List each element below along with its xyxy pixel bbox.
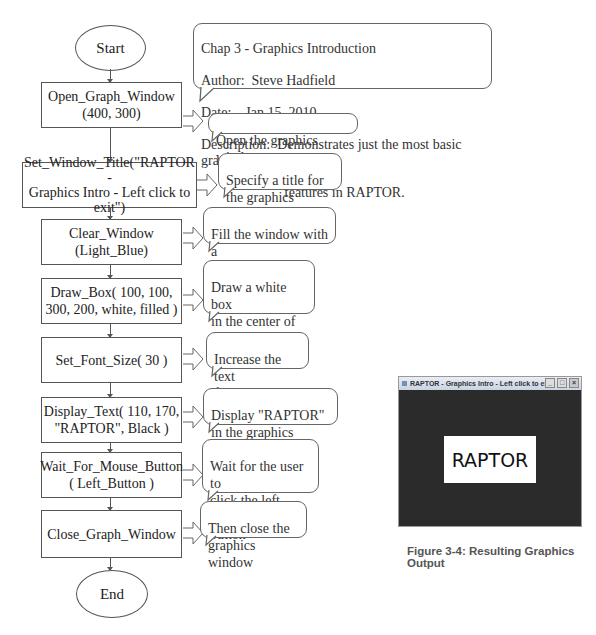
step-clear-window[interactable]: Clear_Window (Light_Blue) bbox=[41, 219, 182, 265]
comment-step-5: Increase the text font size to 30 pt bbox=[206, 332, 309, 369]
comment-step-7: Wait for the user to click the left mous… bbox=[202, 439, 319, 493]
end-terminal[interactable]: End bbox=[76, 570, 148, 618]
step-call-text: Clear_Window (Light_Blue) bbox=[69, 225, 154, 259]
arrow-right-icon bbox=[183, 347, 205, 371]
start-label: Start bbox=[96, 40, 124, 57]
comment-step-3: Fill the window with a light blue backgr… bbox=[203, 207, 336, 244]
step-draw-box[interactable]: Draw_Box( 100, 100, 300, 200, white, fil… bbox=[41, 278, 182, 324]
window-title: RAPTOR - Graphics Intro - Left click to … bbox=[410, 380, 553, 387]
comment-step-8: Then close the graphics window bbox=[200, 501, 307, 538]
connector bbox=[110, 443, 111, 452]
author-label: Author: bbox=[201, 73, 245, 88]
header-comment-tail bbox=[198, 87, 218, 103]
step-open-graph-window[interactable]: Open_Graph_Window (400, 300) bbox=[41, 82, 182, 128]
step-call-text: Wait_For_Mouse_Button ( Left_Button ) bbox=[40, 458, 183, 492]
step-call-text: Display_Text( 110, 170, "RAPTOR", Black … bbox=[44, 403, 179, 437]
arrow-right-icon bbox=[197, 173, 219, 197]
maximize-icon[interactable]: □ bbox=[557, 378, 567, 388]
comment-step-6: Display "RAPTOR" in the graphics window bbox=[203, 388, 338, 425]
comment-text: Then close the graphics window bbox=[208, 521, 290, 570]
app-icon bbox=[402, 381, 407, 386]
step-set-font-size[interactable]: Set_Font_Size( 30 ) bbox=[41, 337, 182, 383]
header-comment: Chap 3 - Graphics Introduction Author: S… bbox=[193, 23, 492, 89]
connector bbox=[110, 324, 111, 337]
step-call-text: Draw_Box( 100, 100, 300, 200, white, fil… bbox=[46, 284, 178, 318]
comment-tail bbox=[222, 187, 238, 199]
figure-caption: Figure 3-4: Resulting Graphics Output bbox=[407, 545, 596, 569]
comment-tail bbox=[204, 535, 220, 547]
connector bbox=[110, 558, 111, 570]
comment-tail bbox=[210, 366, 226, 378]
step-call-text: Set_Font_Size( 30 ) bbox=[56, 352, 168, 369]
step-display-text[interactable]: Display_Text( 110, 170, "RAPTOR", Black … bbox=[41, 397, 182, 443]
arrow-right-icon bbox=[183, 109, 205, 133]
arrow-right-icon bbox=[183, 405, 205, 429]
connector bbox=[110, 383, 111, 397]
comment-tail bbox=[207, 422, 223, 434]
step-call-text: Set_Window_Title("RAPTOR - Graphics Intr… bbox=[23, 155, 196, 215]
window-title-bar[interactable]: RAPTOR - Graphics Intro - Left click to … bbox=[399, 377, 581, 390]
comment-tail bbox=[207, 311, 223, 323]
arrow-right-icon bbox=[183, 288, 205, 312]
white-box: RAPTOR bbox=[444, 436, 536, 483]
comment-step-1: Open the graphics window bbox=[208, 113, 358, 134]
minimize-icon[interactable]: _ bbox=[545, 378, 555, 388]
step-call-text: Close_Graph_Window bbox=[47, 526, 176, 543]
connector bbox=[110, 208, 111, 219]
step-call-text: Open_Graph_Window (400, 300) bbox=[48, 88, 175, 122]
connector bbox=[110, 265, 111, 278]
connector bbox=[110, 69, 111, 82]
end-label: End bbox=[100, 586, 124, 603]
comment-step-4: Draw a white box in the center of the gr… bbox=[203, 260, 315, 314]
raptor-display-text: RAPTOR bbox=[452, 449, 529, 471]
header-title: Chap 3 - Graphics Introduction bbox=[201, 41, 486, 57]
step-wait-for-mouse-button[interactable]: Wait_For_Mouse_Button ( Left_Button ) bbox=[41, 452, 182, 498]
graphics-output-window: RAPTOR - Graphics Intro - Left click to … bbox=[398, 376, 582, 527]
arrow-right-icon bbox=[183, 226, 205, 250]
step-close-graph-window[interactable]: Close_Graph_Window bbox=[41, 510, 182, 558]
start-terminal[interactable]: Start bbox=[75, 25, 146, 71]
header-author-row: Author: Steve Hadfield bbox=[201, 73, 486, 89]
connector bbox=[110, 498, 111, 510]
close-icon[interactable]: × bbox=[569, 378, 579, 388]
comment-tail bbox=[210, 131, 226, 143]
author-value: Steve Hadfield bbox=[252, 73, 336, 88]
comment-tail bbox=[207, 241, 223, 253]
comment-step-2: Specify a title for the graphics window bbox=[218, 153, 342, 190]
step-set-window-title[interactable]: Set_Window_Title("RAPTOR - Graphics Intr… bbox=[22, 162, 197, 208]
graphics-canvas[interactable]: RAPTOR bbox=[399, 390, 581, 526]
